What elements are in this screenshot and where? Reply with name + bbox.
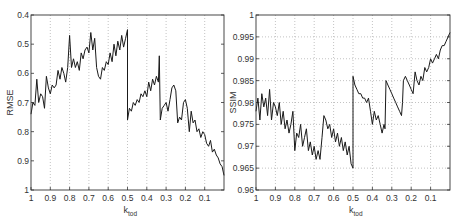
x-tick-label: 0.9 [44, 193, 56, 203]
y-tick-label: 0.5 [17, 39, 29, 49]
y-tick-label: 0.9 [17, 156, 29, 166]
x-tick-label: 1 [254, 193, 259, 203]
x-axis-label: ktod [124, 205, 138, 217]
y-tick-label: 0.8 [17, 127, 29, 137]
x-tick-label: 0.3 [386, 193, 398, 203]
y-tick-label: 0.965 [233, 163, 255, 173]
y-tick-label: 0.99 [237, 54, 254, 64]
y-tick-label: 0.97 [237, 141, 254, 151]
y-tick-label: 1 [24, 185, 29, 195]
x-tick-label: 0.1 [425, 193, 437, 203]
y-axis-label: RMSE [5, 89, 15, 115]
y-tick-label: 1 [249, 10, 254, 20]
y-tick-label: 0.7 [17, 98, 29, 108]
y-tick-label: 0.96 [237, 185, 254, 195]
x-tick-label: 1 [29, 193, 34, 203]
x-tick-label: 0.7 [308, 193, 320, 203]
x-tick-label: 0.6 [102, 193, 114, 203]
x-tick-label: 0.5 [122, 193, 134, 203]
x-tick-label: 0.9 [269, 193, 281, 203]
x-tick-label: 0.1 [199, 193, 211, 203]
x-axis-label-subscript: tod [128, 210, 137, 217]
figure-canvas: 10.90.80.70.60.50.40.30.20.10.40.50.60.7… [0, 0, 466, 223]
rmse-chart: 10.90.80.70.60.50.40.30.20.10.40.50.60.7… [5, 10, 224, 217]
x-tick-label: 0.8 [289, 193, 301, 203]
x-tick-label: 0.4 [366, 193, 378, 203]
y-tick-label: 0.4 [17, 10, 29, 20]
x-axis-label: ktod [349, 205, 363, 217]
ssim-chart: 10.90.80.70.60.50.40.30.20.10.960.9650.9… [228, 10, 450, 217]
data-series-line [256, 33, 450, 169]
x-tick-label: 0.6 [328, 193, 340, 203]
x-tick-label: 0.2 [405, 193, 417, 203]
x-tick-label: 0.3 [160, 193, 172, 203]
y-axis-label: SSIM [228, 91, 238, 113]
y-tick-label: 0.985 [233, 76, 255, 86]
x-tick-label: 0.2 [179, 193, 191, 203]
x-tick-label: 0.7 [83, 193, 95, 203]
x-tick-label: 0.5 [347, 193, 359, 203]
y-tick-label: 0.975 [233, 119, 255, 129]
y-tick-label: 0.98 [237, 98, 254, 108]
x-tick-label: 0.4 [141, 193, 153, 203]
x-tick-label: 0.8 [64, 193, 76, 203]
figure: 10.90.80.70.60.50.40.30.20.10.40.50.60.7… [0, 0, 466, 223]
x-axis-label-subscript: tod [354, 210, 363, 217]
y-tick-label: 0.995 [233, 32, 255, 42]
y-tick-label: 0.6 [17, 68, 29, 78]
